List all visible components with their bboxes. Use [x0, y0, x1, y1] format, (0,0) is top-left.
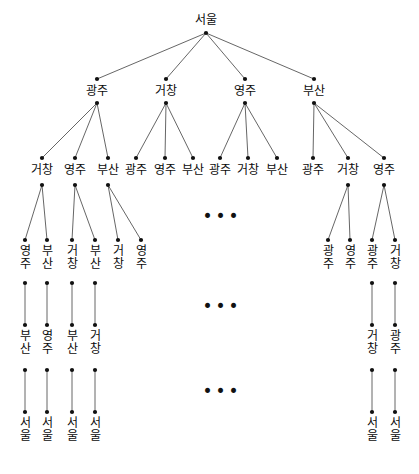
tree-edge — [97, 33, 206, 79]
tree-edge — [42, 103, 97, 158]
tree-node-label: 광주 — [302, 164, 324, 176]
tree-node-label: 거창 — [388, 245, 402, 271]
tree-node-dot[interactable] — [93, 410, 97, 414]
tree-node-label: 영주 — [134, 245, 148, 271]
tree-node-dot[interactable] — [40, 156, 44, 160]
tree-node-label: 거창 — [31, 164, 53, 176]
tree-edge — [314, 103, 384, 158]
tree-node-label: 서울 — [388, 417, 402, 443]
tree-edge — [384, 185, 395, 240]
tree-edge — [313, 103, 314, 158]
tree-node-dot[interactable] — [73, 156, 77, 160]
tree-node-dot-lower[interactable] — [346, 183, 350, 187]
tree-node-dot[interactable] — [45, 410, 49, 414]
tree-node-dot[interactable] — [95, 77, 99, 81]
tree-node-label: 부산 — [182, 164, 204, 176]
tree-node-dot[interactable] — [93, 238, 97, 242]
tree-node-dot[interactable] — [70, 410, 74, 414]
tree-node-dot[interactable] — [45, 323, 49, 327]
tree-node-dot-lower[interactable] — [393, 281, 397, 285]
tree-edge — [206, 33, 314, 79]
tree-node-label: 거창 — [365, 330, 379, 356]
tree-node-dot[interactable] — [139, 238, 143, 242]
tree-node-dot[interactable] — [191, 156, 195, 160]
tree-node-dot[interactable] — [275, 156, 279, 160]
tree-node-label: 서울 — [88, 417, 102, 443]
tree-node-dot-lower[interactable] — [106, 183, 110, 187]
tree-node-label: 영주 — [343, 245, 357, 271]
tree-node-dot[interactable] — [70, 323, 74, 327]
tree-node-dot[interactable] — [93, 323, 97, 327]
tree-node-label: 거창 — [88, 330, 102, 356]
tree-node-dot-lower[interactable] — [370, 368, 374, 372]
tree-node-dot[interactable] — [311, 156, 315, 160]
tree-node-dot-lower[interactable] — [312, 101, 316, 105]
tree-node-label: 부산 — [303, 85, 325, 97]
ellipsis-icon: ••• — [202, 208, 241, 225]
tree-node-dot[interactable] — [370, 410, 374, 414]
tree-node-dot-lower[interactable] — [45, 281, 49, 285]
tree-node-dot-lower[interactable] — [93, 368, 97, 372]
tree-node-label: 광주 — [86, 85, 108, 97]
tree-node-dot[interactable] — [346, 156, 350, 160]
tree-edge — [166, 33, 206, 79]
tree-node-dot-lower[interactable] — [23, 281, 27, 285]
tree-node-dot-lower[interactable] — [393, 368, 397, 372]
tree-node-dot-lower[interactable] — [95, 101, 99, 105]
tree-edge — [348, 185, 350, 240]
tree-node-dot-lower[interactable] — [382, 183, 386, 187]
tree-node-dot[interactable] — [243, 77, 247, 81]
tree-node-dot[interactable] — [23, 238, 27, 242]
tree-node-dot[interactable] — [370, 238, 374, 242]
tree-node-dot[interactable] — [23, 410, 27, 414]
tree-node-dot-lower[interactable] — [23, 368, 27, 372]
tree-node-dot-lower[interactable] — [164, 101, 168, 105]
tree-node-dot[interactable] — [326, 238, 330, 242]
tree-node-label: 거창 — [111, 245, 125, 271]
tree-edge — [206, 33, 245, 79]
search-tree-figure: 서울광주거창영주부산거창영주부산광주영주부산광주거창부산광주거창영주영주부산거창… — [0, 0, 419, 474]
tree-node-dot-lower[interactable] — [93, 281, 97, 285]
tree-node-dot[interactable] — [312, 77, 316, 81]
tree-edge — [72, 185, 75, 240]
tree-node-dot[interactable] — [134, 156, 138, 160]
tree-node-dot[interactable] — [116, 238, 120, 242]
tree-edge — [245, 103, 277, 158]
tree-edge — [25, 185, 42, 240]
tree-node-dot[interactable] — [106, 156, 110, 160]
tree-edge — [97, 103, 108, 158]
tree-node-dot-lower[interactable] — [70, 368, 74, 372]
tree-node-dot-lower[interactable] — [40, 183, 44, 187]
tree-node-dot-lower[interactable] — [70, 281, 74, 285]
tree-node-dot-lower[interactable] — [243, 101, 247, 105]
tree-node-dot[interactable] — [370, 323, 374, 327]
tree-node-label: 거창 — [237, 164, 259, 176]
tree-node-label: 부산 — [18, 330, 32, 356]
tree-node-dot[interactable] — [45, 238, 49, 242]
tree-node-label: 광주 — [388, 330, 402, 356]
tree-node-dot[interactable] — [393, 238, 397, 242]
tree-node-dot[interactable] — [23, 323, 27, 327]
tree-node-dot[interactable] — [164, 77, 168, 81]
tree-node-label: 영주 — [154, 164, 176, 176]
tree-node-label: 영주 — [64, 164, 86, 176]
tree-node-dot-lower[interactable] — [45, 368, 49, 372]
tree-node-dot[interactable] — [163, 156, 167, 160]
tree-node-dot-lower[interactable] — [73, 183, 77, 187]
tree-node-label: 부산 — [88, 245, 102, 271]
tree-node-label: 광주 — [209, 164, 231, 176]
tree-node-dot[interactable] — [393, 410, 397, 414]
tree-node-dot[interactable] — [70, 238, 74, 242]
tree-edge — [314, 103, 348, 158]
tree-node-label: 거창 — [155, 85, 177, 97]
tree-node-dot-lower[interactable] — [370, 281, 374, 285]
ellipsis-icon: ••• — [202, 383, 241, 400]
tree-node-dot[interactable] — [393, 323, 397, 327]
tree-node-label: 부산 — [65, 330, 79, 356]
tree-node-dot[interactable] — [382, 156, 386, 160]
tree-node-dot[interactable] — [204, 31, 208, 35]
tree-node-dot[interactable] — [246, 156, 250, 160]
tree-node-dot[interactable] — [218, 156, 222, 160]
tree-node-dot[interactable] — [348, 238, 352, 242]
tree-node-label: 거창 — [65, 245, 79, 271]
